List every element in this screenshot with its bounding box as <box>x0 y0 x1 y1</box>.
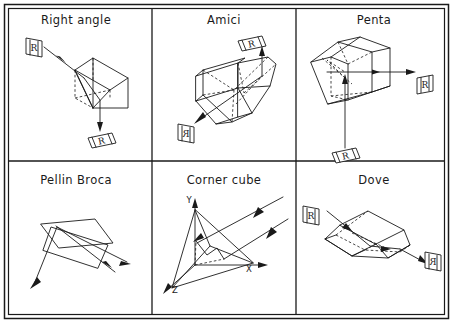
ray-penta <box>322 58 416 148</box>
cell-pellin-broca: Pellin Broca <box>30 173 131 289</box>
input-glyph-right-angle: R <box>31 43 38 53</box>
cell-title-right-angle: Right angle <box>41 13 111 27</box>
prism-types-figure: Right angle <box>0 0 453 323</box>
cell-penta: Penta <box>311 13 433 163</box>
output-glyph-dove: R <box>429 257 436 267</box>
cell-right-angle: Right angle <box>26 13 128 148</box>
grid-dividers <box>9 9 444 314</box>
input-glyph-amici: R <box>182 129 189 139</box>
cell-title-pellin-broca: Pellin Broca <box>40 173 112 187</box>
output-glyph-penta: R <box>422 80 429 90</box>
cell-title-penta: Penta <box>357 13 391 27</box>
output-plate-right-angle: R <box>88 133 116 148</box>
axis-label-x: X <box>246 264 252 274</box>
input-plate-right-angle: R <box>26 38 42 57</box>
output-plate-penta: R <box>417 75 433 94</box>
ray-amici <box>194 46 265 124</box>
ray-pellin-broca <box>30 226 131 289</box>
prism-body-penta <box>311 37 390 104</box>
input-glyph-dove: R <box>308 211 315 221</box>
cell-dove: Dove <box>303 173 441 271</box>
ray-dove <box>327 211 428 264</box>
cell-title-dove: Dove <box>358 173 389 187</box>
axis-label-y: Y <box>185 195 192 205</box>
cell-title-corner-cube: Corner cube <box>187 173 262 187</box>
ray-right-angle <box>44 47 103 132</box>
input-plate-amici: R <box>178 124 194 143</box>
output-plate-dove: R <box>425 252 441 271</box>
prism-body-dove <box>325 211 410 258</box>
cell-amici: Amici <box>178 13 276 143</box>
cell-title-amici: Amici <box>207 13 241 27</box>
prism-body-pellin-broca <box>41 219 113 268</box>
prism-body-right-angle <box>75 58 128 108</box>
input-plate-dove: R <box>303 206 319 225</box>
cell-corner-cube: Corner cube Y X Z <box>163 173 288 295</box>
retroreflector-corner-cube <box>172 210 253 288</box>
